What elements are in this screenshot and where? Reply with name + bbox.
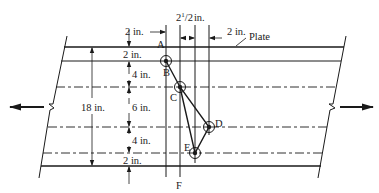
point-label-B: B bbox=[163, 67, 170, 78]
point-label-F: F bbox=[176, 180, 182, 191]
total-width-label: 18 in. bbox=[81, 102, 105, 113]
plate-label: Plate bbox=[249, 31, 270, 42]
point-label-D: D bbox=[215, 118, 223, 129]
point-label-A: A bbox=[157, 39, 165, 50]
vdim-label-1: 2 in. bbox=[123, 49, 142, 60]
vdim-label-3: 6 in. bbox=[132, 102, 151, 113]
dim-label-edge-A: 2 in. bbox=[125, 26, 144, 37]
dim-label-last: 2 in. bbox=[227, 26, 246, 37]
vdim-label-4: 4 in. bbox=[132, 135, 151, 146]
dim-label-pitch: 21/2in. bbox=[176, 11, 205, 23]
point-label-C: C bbox=[170, 92, 177, 103]
vdim-label-5: 2 in. bbox=[123, 155, 142, 166]
diagram-svg: 2 in. 21/2in. 2 in. Plate 2 in. 4 in. 6 … bbox=[0, 0, 379, 193]
failure-path bbox=[166, 61, 209, 153]
vdim-label-2: 4 in. bbox=[132, 69, 151, 80]
point-label-E: E bbox=[184, 142, 190, 153]
plate-leader bbox=[236, 38, 246, 46]
plate-diagram: 2 in. 21/2in. 2 in. Plate 2 in. 4 in. 6 … bbox=[0, 0, 379, 193]
